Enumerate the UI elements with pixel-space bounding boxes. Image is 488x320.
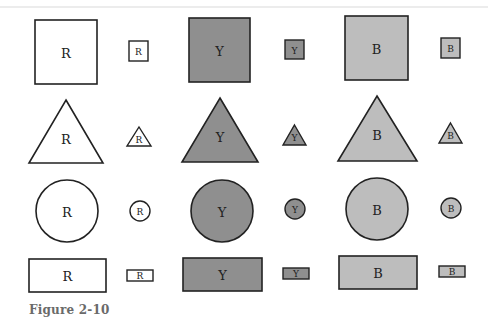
shape-label: R [61,132,72,147]
square-large-b: B [345,16,408,80]
rectangle-small-r: R [127,270,153,281]
circle-large-r: R [36,180,98,242]
triangle-small-y: Y [283,125,306,145]
triangle-large-b: B [338,96,417,161]
shape-label: R [61,46,72,61]
square-small-b: B [441,38,460,58]
square-small-y: Y [285,40,304,59]
shape-label: B [447,131,454,141]
shape-label: B [449,267,456,277]
row-squares: R R Y Y B B [35,16,460,84]
shape-label: B [447,44,454,54]
shape-label: Y [291,205,299,215]
square-small-r: R [129,41,148,61]
circle-large-b: B [346,178,408,240]
rectangle-large-b: B [339,256,417,289]
shape-label: Y [291,46,299,56]
figure-caption: Figure 2-10 [29,303,110,317]
shape-label: R [62,205,73,220]
shape-label: B [448,204,455,214]
shape-label: R [137,271,144,281]
circle-large-y: Y [191,180,253,242]
triangle-small-r: R [127,127,151,146]
square-large-y: Y [189,18,250,82]
shape-label: Y [217,205,227,220]
circle-small-b: B [441,198,461,218]
shapes-figure: R R Y Y B B R R [0,0,488,320]
shape-label: R [136,135,143,145]
circle-small-y: Y [285,199,305,219]
row-rectangles: R R Y Y B B [29,256,465,292]
shape-label: Y [217,268,227,283]
square-large-r: R [35,20,97,84]
shape-label: Y [291,133,299,143]
shape-label: B [372,42,382,57]
shape-label: B [372,128,382,143]
shape-label: Y [215,130,225,145]
rectangle-large-y: Y [183,258,262,291]
rectangle-small-b: B [439,266,465,277]
shape-label: B [372,203,382,218]
shape-label: Y [292,269,300,279]
shape-label: R [135,47,142,57]
shape-label: Y [214,44,224,59]
shape-label: R [63,269,74,284]
triangle-large-r: R [29,100,103,163]
rectangle-small-y: Y [283,268,309,279]
row-circles: R R Y Y B B [36,178,461,242]
circle-small-r: R [130,201,150,221]
shape-label: B [373,266,383,281]
shape-label: R [137,207,144,217]
row-triangles: R R Y Y B B [29,96,462,163]
triangle-large-y: Y [182,98,258,162]
triangle-small-b: B [439,123,462,143]
rectangle-large-r: R [29,259,106,292]
